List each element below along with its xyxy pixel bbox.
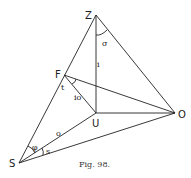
angle-label-s: s: [46, 147, 50, 156]
angle-arc-Z: [96, 30, 107, 35]
point-label-S: S: [9, 158, 15, 169]
point-label-O: O: [178, 109, 186, 120]
angle-label-phi: φ: [32, 143, 38, 152]
segment-label-io: io: [74, 93, 82, 102]
edge-S-U: [19, 113, 96, 163]
angle-label-t: t: [61, 83, 65, 92]
angle-label-sigma: σ: [102, 39, 108, 48]
angle-arc-F: [72, 79, 76, 84]
diagram-canvas: Z F U O S i io o σ t φ s Fig. 98.: [0, 0, 191, 178]
segment-label-i: i: [97, 60, 100, 69]
edge-Z-O: [96, 15, 175, 113]
point-label-U: U: [92, 118, 99, 129]
point-label-F: F: [55, 69, 61, 80]
point-label-Z: Z: [85, 10, 92, 21]
segment-label-o: o: [56, 129, 61, 138]
edge-S-Z: [19, 15, 96, 163]
figure-caption: Fig. 98.: [79, 160, 110, 169]
angle-arc-S-lower: [42, 148, 43, 155]
